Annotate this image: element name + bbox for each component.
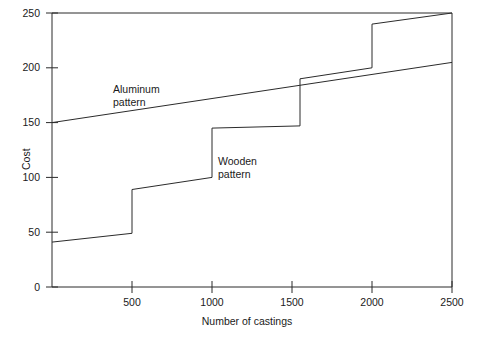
x-tick-label-1500: 1500	[272, 297, 312, 308]
y-tick-label-200: 200	[8, 62, 40, 73]
series-line-aluminum-pattern	[52, 62, 452, 122]
x-tick-label-500: 500	[112, 297, 152, 308]
axis-frame	[52, 13, 452, 287]
x-axis-title: Number of castings	[177, 315, 317, 327]
x-tick-label-2000: 2000	[352, 297, 392, 308]
annotation-aluminum-line2: pattern	[113, 96, 160, 109]
y-tick-label-50: 50	[8, 227, 40, 238]
y-tick-label-250: 250	[8, 8, 40, 19]
x-tick-label-1000: 1000	[192, 297, 232, 308]
y-tick-label-150: 150	[8, 117, 40, 128]
annotation-wooden-line1: Wooden	[218, 155, 257, 168]
y-axis-title: Cost	[20, 148, 32, 170]
annotation-wooden-pattern: Wooden pattern	[218, 155, 257, 181]
x-tick-label-2500: 2500	[432, 297, 472, 308]
annotation-wooden-line2: pattern	[218, 168, 257, 181]
annotation-aluminum-line1: Aluminum	[113, 83, 160, 96]
annotation-aluminum-pattern: Aluminum pattern	[113, 83, 160, 109]
series-line-wooden-pattern	[52, 13, 452, 242]
y-tick-label-100: 100	[8, 172, 40, 183]
chart-figure: 0 50 100 150 200 250 500 1000 1500 2000 …	[0, 0, 477, 338]
y-tick-label-0: 0	[8, 282, 40, 293]
